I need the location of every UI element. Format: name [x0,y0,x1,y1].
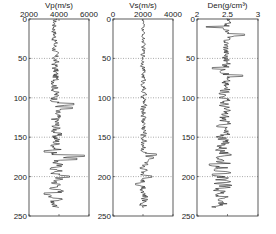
x-tick-label: 3 [256,10,261,19]
y-tick-label: 50 [186,54,195,63]
x-tick-label: 6000 [80,10,98,19]
y-tick-label: 0 [191,15,196,24]
x-tick-label: 4000 [50,10,68,19]
y-tick-label: 0 [107,15,112,24]
y-tick-label: 50 [102,54,111,63]
y-tick-label: 250 [14,212,28,221]
log-panel-2: 020004000050100150200250Vs(m/s) [98,1,183,221]
axis-title: Vs(m/s) [129,1,157,10]
y-tick-label: 250 [98,212,112,221]
y-tick-label: 250 [182,212,196,221]
y-tick-label: 0 [23,15,28,24]
y-tick-label: 200 [98,173,112,182]
log-curve [136,19,157,207]
log-curve [44,19,85,207]
x-tick-label: 2000 [134,10,152,19]
y-tick-label: 200 [14,173,28,182]
y-tick-label: 100 [98,94,112,103]
y-tick-label: 150 [98,133,112,142]
y-tick-label: 100 [14,94,28,103]
log-panel-1: 200040006000050100150200250Vp(m/s) [14,1,99,221]
x-tick-label: 2 [195,10,200,19]
axis-title: Vp(m/s) [45,1,73,10]
x-tick-label: 2.5 [222,10,234,19]
log-curve [206,19,244,207]
well-log-figure: 200040006000050100150200250Vp(m/s)020004… [0,0,276,234]
y-tick-label: 200 [182,173,196,182]
y-tick-label: 100 [182,94,196,103]
axis-title: Den(g/cm³) [207,1,247,10]
x-tick-label: 4000 [164,10,182,19]
x-tick-label: 0 [111,10,116,19]
y-tick-label: 50 [18,54,27,63]
y-tick-label: 150 [14,133,28,142]
log-panel-3: 22.53050100150200250Den(g/cm³) [182,1,261,221]
y-tick-label: 150 [182,133,196,142]
